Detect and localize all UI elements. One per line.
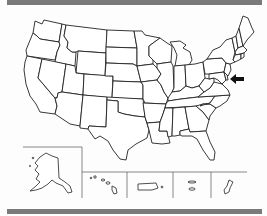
us-outline-map xyxy=(0,0,267,216)
bottom-border-bar xyxy=(7,209,262,214)
state-alaska xyxy=(30,153,72,193)
inset-puerto-rico xyxy=(138,183,163,190)
state-michigan xyxy=(170,41,192,66)
state-wyoming xyxy=(76,51,106,76)
state-rhode-island xyxy=(241,53,244,59)
inset-alaska xyxy=(29,153,72,193)
state-pennsylvania xyxy=(203,58,226,74)
state-florida xyxy=(180,129,215,160)
state-colorado xyxy=(83,74,113,98)
state-montana xyxy=(64,25,107,53)
inset-virgin-islands xyxy=(188,181,196,190)
map-frame xyxy=(0,0,267,216)
state-arizona xyxy=(55,92,83,126)
contiguous-states xyxy=(24,16,254,160)
state-north-dakota xyxy=(106,30,137,48)
state-kansas xyxy=(112,81,143,99)
state-new-mexico xyxy=(80,95,107,129)
inset-hawaii xyxy=(90,176,117,194)
highlight-arrow-icon xyxy=(230,74,244,84)
inset-guam xyxy=(224,180,233,194)
